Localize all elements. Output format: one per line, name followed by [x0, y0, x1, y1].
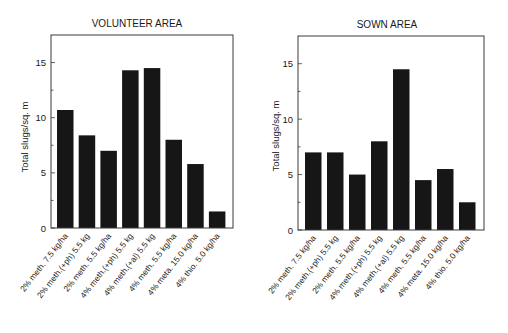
bar: [166, 140, 183, 228]
chart-volunteer-area: VOLUNTEER AREA2% meth. 7.5 kg/ha2% meth.…: [18, 18, 233, 300]
bar: [393, 69, 410, 230]
bar: [437, 169, 454, 230]
y-tick-label: 5: [41, 167, 46, 178]
y-tick-label: 10: [35, 112, 46, 123]
bar: [327, 152, 344, 230]
y-tick-label: 15: [35, 57, 46, 68]
y-tick-label: 5: [288, 169, 293, 180]
bar: [187, 164, 204, 228]
chart-title: VOLUNTEER AREA: [92, 18, 183, 29]
bar: [459, 202, 476, 230]
y-axis-label: Total slugs/sq. m: [19, 102, 30, 173]
bar: [415, 180, 432, 230]
bar: [371, 141, 388, 230]
bar: [57, 110, 74, 228]
bar: [100, 151, 117, 228]
chart-sown-area: SOWN AREA2% meth. 7.5 kg/ha2% meth.(+ph)…: [266, 19, 484, 302]
y-tick-label: 0: [41, 223, 46, 234]
bar: [79, 135, 96, 228]
bar: [305, 152, 322, 230]
figure: VOLUNTEER AREA2% meth. 7.5 kg/ha2% meth.…: [0, 0, 508, 333]
bar: [209, 211, 226, 228]
plot-frame: [298, 36, 484, 230]
y-tick-label: 10: [282, 114, 293, 125]
bar: [349, 175, 366, 230]
y-tick-label: 15: [282, 58, 293, 69]
bar: [144, 68, 161, 228]
y-tick-label: 0: [288, 225, 293, 236]
plot-frame: [51, 35, 233, 228]
bar: [122, 70, 139, 228]
chart-title: SOWN AREA: [357, 19, 418, 30]
y-axis-label: Total slugs/sq. m: [270, 101, 281, 172]
